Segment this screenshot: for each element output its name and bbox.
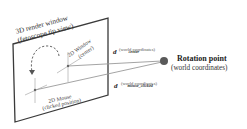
- window-center-point: [67, 65, 69, 67]
- rotation-point-subtitle: (world coordinates): [171, 65, 227, 72]
- d-mouse-symbol: d: [114, 82, 118, 90]
- d-mouse-note: (world coordinates): [121, 82, 157, 87]
- d-center-symbol: d: [113, 48, 117, 56]
- rotation-point-title: Rotation point: [177, 55, 227, 63]
- rotation-point-marker: [160, 57, 168, 65]
- d-center-note: (world coordinates): [119, 48, 155, 53]
- mouse-point: [34, 89, 36, 91]
- rotation-diagram: 3D render window (fetoscope tip view) 2D…: [0, 0, 247, 129]
